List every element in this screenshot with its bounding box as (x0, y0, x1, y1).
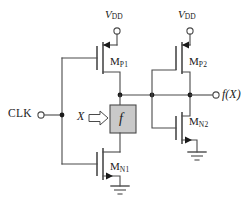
mp1-source-arrow-icon (103, 42, 110, 49)
transistor-mp2[interactable] (176, 42, 190, 95)
wire-mp1-drain-to-dynamic-node (103, 72, 120, 95)
circuit-schematic-svg (0, 0, 249, 210)
label-mp1-subscript: P1 (120, 60, 128, 69)
label-mn2-text: M (189, 115, 199, 127)
label-x-input: X (77, 110, 84, 122)
label-vdd-right-subscript: DD (185, 12, 196, 21)
junction-dot-clk (60, 113, 65, 118)
block-arrow-right-icon-x-input (89, 111, 108, 125)
open-terminal-icon-clk[interactable] (38, 112, 44, 118)
label-vdd-left-text: V (105, 8, 112, 20)
wire-mn2-drain-to-output (182, 95, 190, 116)
circuit-diagram: VDD VDD CLK X f f(X) MP1 MP2 MN1 MN2 (0, 0, 249, 210)
label-mp1: MP1 (110, 56, 128, 68)
label-vdd-right-text: V (178, 8, 185, 20)
mn2-source-arrow-icon (185, 137, 192, 144)
open-terminal-icon-output[interactable] (213, 92, 219, 98)
label-vdd-right: VDD (178, 9, 196, 21)
transistor-mp1[interactable] (62, 42, 120, 95)
vdd-left-terminal-group (114, 28, 120, 45)
label-clk: CLK (8, 108, 32, 120)
label-mp2-subscript: P2 (199, 60, 207, 69)
mn1-source-arrow-icon (106, 173, 113, 180)
label-mp2-text: M (189, 55, 199, 67)
wire-mp2-drain-to-output (182, 72, 190, 95)
label-mn2-subscript: N2 (199, 120, 209, 129)
ground-icon-mn1 (111, 186, 129, 194)
label-function-block-f: f (119, 111, 123, 127)
label-mp2: MP2 (189, 56, 207, 68)
ground-icon-mn2 (188, 152, 206, 160)
label-mn1-subscript: N1 (120, 165, 130, 174)
label-vdd-left: VDD (105, 9, 123, 21)
label-mn1-text: M (110, 160, 120, 172)
open-terminal-icon-vdd-left[interactable] (114, 28, 120, 34)
wire-mn2-source-to-ground (182, 140, 197, 152)
open-terminal-icon-vdd-right[interactable] (187, 28, 193, 34)
wire-inverter-input-to-mn2-gate (152, 95, 176, 128)
label-output-fx: f(X) (222, 88, 241, 100)
label-mn1: MN1 (110, 161, 129, 173)
wire-mn1-source-to-ground (103, 176, 120, 186)
label-mp1-text: M (110, 55, 120, 67)
mp2-source-arrow-icon (182, 42, 189, 49)
label-vdd-left-subscript: DD (112, 12, 123, 21)
wire-inverter-input-to-mp2-gate (152, 70, 176, 95)
label-mn2: MN2 (189, 116, 208, 128)
clk-input-group (38, 58, 65, 164)
function-block-f[interactable] (110, 105, 136, 133)
